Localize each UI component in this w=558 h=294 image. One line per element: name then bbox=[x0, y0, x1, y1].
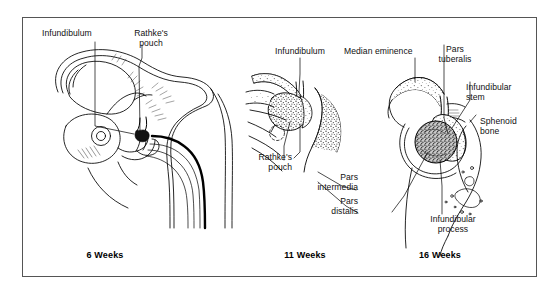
caption-6-weeks: 6 Weeks bbox=[60, 250, 150, 260]
label-infundibular-stem-16w: Infundibular stem bbox=[466, 82, 536, 103]
label-pars-tuberalis-16w: Pars tuberalis bbox=[428, 44, 482, 65]
label-infundibular-process-16w: Infundibular process bbox=[418, 214, 488, 235]
caption-11-weeks: 11 Weeks bbox=[260, 250, 350, 260]
label-infundibulum-6w: Infundibulum bbox=[42, 28, 130, 38]
label-infundibulum-11w: Infundibulum bbox=[258, 46, 342, 56]
label-sphenoid-bone-16w: Sphenoid bone bbox=[480, 116, 538, 137]
label-rathkes-pouch-11w: Rathke's pouch bbox=[228, 152, 292, 173]
caption-16-weeks: 16 Weeks bbox=[395, 250, 485, 260]
pituitary-development-figure: Infundibulum Rathke's pouch 6 Weeks Infu… bbox=[0, 0, 558, 294]
label-pars-distalis-11w: Pars distalis bbox=[300, 196, 358, 217]
label-rathkes-pouch-6w: Rathke's pouch bbox=[124, 28, 178, 49]
label-pars-intermedia-11w: Pars intermedia bbox=[300, 172, 358, 193]
